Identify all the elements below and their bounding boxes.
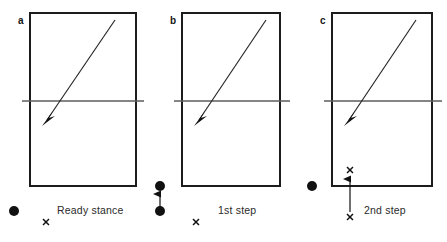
panel-a-shuttle-arrowhead [42, 111, 55, 126]
panel-a: a Ready stance [9, 13, 144, 225]
badminton-footwork-figure: a Ready stance b [0, 0, 447, 242]
panel-c: c 2nd step [307, 13, 442, 220]
panel-a-player-dot [9, 206, 19, 216]
panel-b-player-dot-start [155, 181, 165, 191]
panel-c-shuttle-path [349, 20, 416, 120]
panel-c-x-mark-target [347, 167, 353, 173]
panel-b: b 1st step [155, 13, 290, 225]
panel-b-letter: b [170, 15, 176, 26]
panel-b-caption: 1st step [218, 204, 256, 216]
panel-c-x-mark-origin [347, 214, 353, 220]
panel-a-letter: a [18, 15, 24, 26]
panel-c-court-box [332, 13, 432, 186]
panel-c-letter: c [320, 15, 326, 26]
panel-a-shuttle-path [47, 20, 115, 120]
figure-canvas: a Ready stance b [0, 0, 447, 242]
panel-c-player-dot [307, 181, 317, 191]
panel-c-caption: 2nd step [364, 204, 406, 216]
panel-b-x-mark [193, 219, 199, 225]
panel-b-court-box [182, 13, 280, 186]
panel-a-court-box [30, 13, 136, 186]
panel-c-shuttle-arrowhead [344, 111, 357, 126]
panel-b-shuttle-arrowhead [194, 111, 207, 126]
panel-a-x-mark [43, 219, 49, 225]
panel-b-shuttle-path [199, 20, 266, 120]
panel-a-caption: Ready stance [57, 204, 124, 216]
panel-b-player-dot-end [155, 206, 165, 216]
